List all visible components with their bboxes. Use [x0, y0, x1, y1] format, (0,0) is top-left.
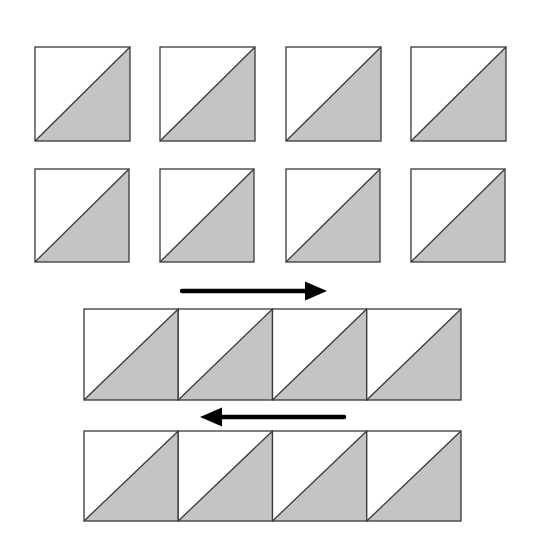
loose-block-r1-1: [35, 47, 130, 141]
sewn-block-r1-1: [84, 309, 178, 400]
loose-block-r1-3: [286, 47, 381, 141]
loose-block-r2-1: [35, 169, 129, 262]
loose-block-r1-4: [411, 47, 506, 141]
sewn-block-r1-4: [367, 309, 461, 400]
sewn-block-r2-3: [273, 431, 367, 521]
loose-block-r2-2: [160, 169, 254, 262]
sewn-block-r2-1: [84, 431, 178, 521]
press-right-arrow-icon: [182, 282, 327, 301]
sewn-block-r2-4: [367, 431, 461, 521]
loose-block-r2-3: [286, 169, 380, 262]
sewn-block-r1-2: [178, 309, 272, 400]
sewn-block-r2-2: [178, 431, 272, 521]
loose-block-rows: [35, 47, 506, 262]
press-left-arrow-icon: [200, 408, 344, 427]
sewn-block-r1-3: [273, 309, 367, 400]
loose-block-r2-4: [411, 169, 505, 262]
loose-block-r1-2: [160, 47, 255, 141]
half-square-triangle-diagram: [0, 0, 536, 543]
